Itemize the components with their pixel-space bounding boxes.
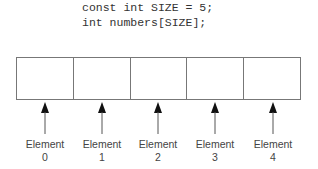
element-pointer-2: Element2 — [128, 102, 188, 164]
element-pointer-0: Element0 — [15, 102, 75, 164]
array-cell-3 — [187, 58, 244, 99]
element-label-1: Element1 — [72, 138, 132, 164]
up-arrow-icon — [268, 102, 278, 134]
code-snippet: const int SIZE = 5;int numbers[SIZE]; — [82, 0, 213, 30]
element-label-4: Element4 — [243, 138, 303, 164]
array-cell-1 — [74, 58, 131, 99]
element-label-2: Element2 — [128, 138, 188, 164]
up-arrow-icon — [153, 102, 163, 134]
up-arrow-icon — [210, 102, 220, 134]
array-cell-2 — [131, 58, 188, 99]
element-label-3: Element3 — [185, 138, 245, 164]
array-cell-0 — [17, 58, 74, 99]
element-pointer-4: Element4 — [243, 102, 303, 164]
element-pointer-1: Element1 — [72, 102, 132, 164]
code-line-const: const int SIZE = 5; — [82, 0, 213, 15]
element-pointer-3: Element3 — [185, 102, 245, 164]
up-arrow-icon — [97, 102, 107, 134]
element-label-0: Element0 — [15, 138, 75, 164]
array-cell-4 — [244, 58, 300, 99]
code-line-array-decl: int numbers[SIZE]; — [82, 15, 213, 30]
up-arrow-icon — [40, 102, 50, 134]
array-diagram — [16, 57, 301, 100]
